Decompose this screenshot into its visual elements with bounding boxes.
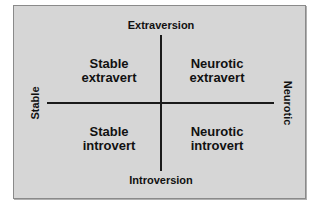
quadrant-label-line2: introvert [54,139,164,153]
axis-label-stable: Stable [30,86,41,119]
quadrant-label-line1: Neurotic [162,57,272,71]
quadrant-stable-extravert: Stable extravert [54,57,164,85]
quadrant-label-line2: extravert [162,71,272,85]
quadrant-neurotic-extravert: Neurotic extravert [162,57,272,85]
quadrant-label-line1: Stable [54,125,164,139]
quadrant-stable-introvert: Stable introvert [54,125,164,153]
quadrant-label-line2: introvert [162,139,272,153]
horizontal-axis-line [47,102,274,104]
axis-label-neurotic: Neurotic [282,81,293,126]
quadrant-label-line1: Stable [54,57,164,71]
quadrant-neurotic-introvert: Neurotic introvert [162,125,272,153]
axis-label-extraversion: Extraversion [128,20,195,31]
axis-label-introversion: Introversion [129,175,193,186]
quadrant-label-line1: Neurotic [162,125,272,139]
quadrant-label-line2: extravert [54,71,164,85]
